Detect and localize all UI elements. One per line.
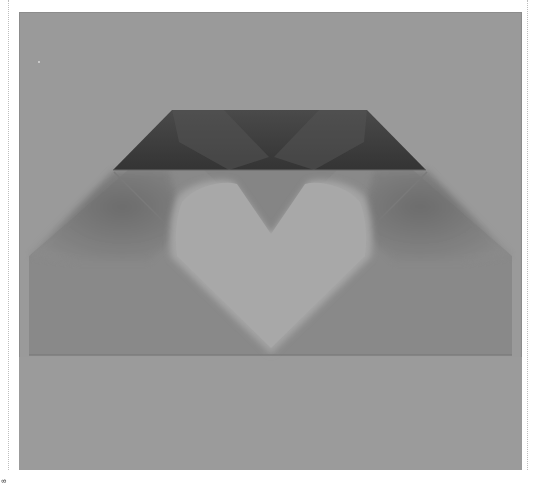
side-caption: 8: [0, 440, 10, 483]
origami-heart-envelope: [19, 12, 522, 470]
page-margin-rule-left: [8, 0, 9, 470]
page-margin-rule-right: [527, 0, 528, 470]
envelope-photo: [19, 12, 522, 470]
